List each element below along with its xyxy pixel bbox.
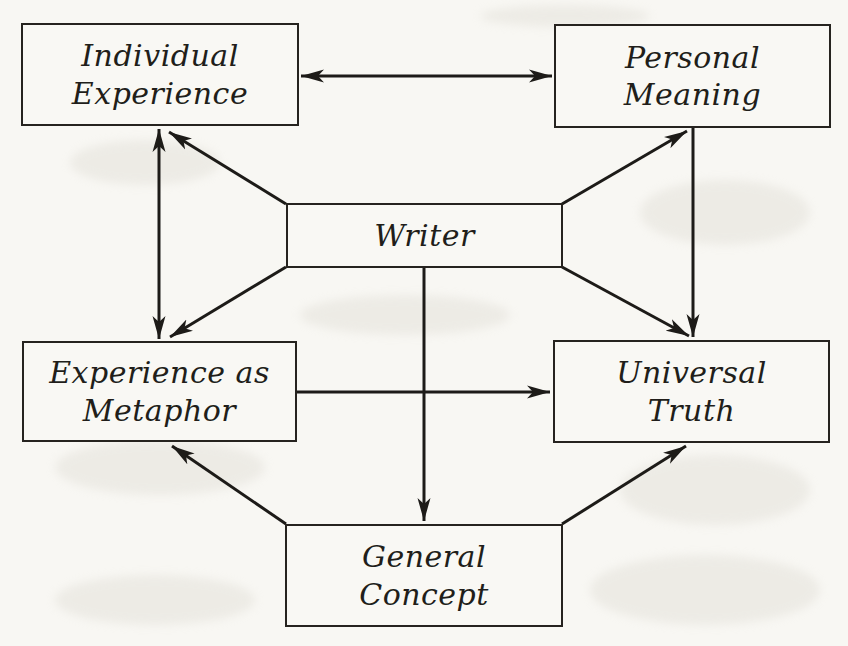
- node-general-concept: General Concept: [285, 524, 563, 627]
- node-label-line: Meaning: [624, 76, 761, 113]
- node-label-line: Personal: [625, 39, 760, 76]
- arrow-writer-to-personal-meaning: [562, 131, 687, 204]
- arrow-general-concept-to-universal-truth: [562, 446, 686, 524]
- node-universal-truth: Universal Truth: [553, 340, 830, 443]
- node-label-line: Experience as: [49, 354, 270, 391]
- node-writer: Writer: [286, 203, 563, 268]
- arrow-general-concept-to-experience-as-metaphor: [172, 446, 286, 524]
- node-label-line: Concept: [359, 576, 489, 613]
- node-individual-experience: Individual Experience: [21, 23, 299, 126]
- diagram-page: Individual Experience Personal Meaning W…: [0, 0, 848, 646]
- node-label-line: General: [362, 538, 486, 575]
- node-label-line: Truth: [648, 392, 736, 429]
- node-label-line: Writer: [374, 217, 475, 254]
- arrow-writer-to-experience-as-metaphor: [170, 267, 286, 337]
- node-label-line: Universal: [616, 354, 767, 391]
- node-label-line: Metaphor: [83, 392, 236, 429]
- node-label-line: Individual: [81, 37, 239, 74]
- node-experience-as-metaphor: Experience as Metaphor: [22, 341, 297, 442]
- arrow-writer-to-individual-experience: [169, 132, 286, 204]
- arrow-writer-to-universal-truth: [562, 267, 689, 336]
- node-label-line: Experience: [72, 75, 248, 112]
- node-personal-meaning: Personal Meaning: [554, 24, 831, 128]
